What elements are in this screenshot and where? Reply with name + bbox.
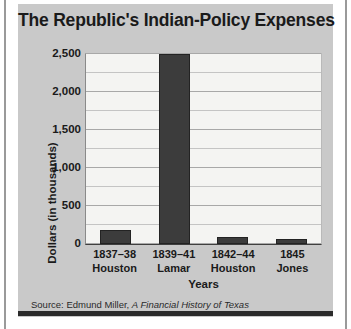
bar-series — [86, 54, 321, 244]
x-axis-tick-years: 1839–41 — [144, 248, 203, 262]
bar — [276, 239, 307, 244]
y-axis-tick-labels: Dollars (in thousands) 05001,0001,5002,0… — [18, 53, 81, 243]
y-axis-tick-label: 0 — [18, 237, 81, 249]
bar-slot — [262, 54, 321, 244]
left-edge-rule — [4, 0, 6, 329]
footer-band — [18, 311, 333, 316]
source-book-title: A Financial History of Texas — [132, 299, 249, 310]
x-axis-tick-years: 1845 — [263, 248, 322, 262]
x-axis-tick-years: 1842–44 — [204, 248, 263, 262]
x-axis-tick-labels: 1837–38Houston1839–41Lamar1842–44Houston… — [85, 248, 322, 275]
y-axis-tick-label: 2,500 — [18, 47, 81, 59]
y-axis-tick-label: 1,000 — [18, 161, 81, 173]
x-axis-tick-label: 1845Jones — [263, 248, 322, 275]
x-axis-tick-president: Jones — [263, 262, 322, 276]
right-edge-rule — [345, 0, 347, 329]
x-axis-tick-label: 1839–41Lamar — [144, 248, 203, 275]
plot-area — [85, 53, 322, 245]
bar-slot — [86, 54, 145, 244]
chart-figure: The Republic's Indian-Policy Expenses Do… — [0, 0, 351, 329]
x-axis-tick-president: Lamar — [144, 262, 203, 276]
y-axis-tick-label: 1,500 — [18, 123, 81, 135]
x-axis-title: Years — [85, 278, 322, 290]
bar — [159, 54, 190, 244]
bar-slot — [145, 54, 204, 244]
source-note: Source: Edmund Miller, A Financial Histo… — [31, 299, 249, 310]
x-axis-tick-label: 1842–44Houston — [204, 248, 263, 275]
x-axis-tick-label: 1837–38Houston — [85, 248, 144, 275]
x-axis-tick-president: Houston — [85, 262, 144, 276]
y-axis-tick-label: 2,000 — [18, 85, 81, 97]
bar — [217, 237, 248, 244]
bar — [100, 230, 131, 244]
source-prefix: Source: Edmund Miller, — [31, 299, 132, 310]
x-axis-tick-president: Houston — [204, 262, 263, 276]
y-axis-tick-label: 500 — [18, 199, 81, 211]
chart-panel: The Republic's Indian-Policy Expenses Do… — [18, 4, 333, 317]
chart-title: The Republic's Indian-Policy Expenses — [18, 10, 333, 31]
bar-slot — [204, 54, 263, 244]
x-axis-tick-years: 1837–38 — [85, 248, 144, 262]
